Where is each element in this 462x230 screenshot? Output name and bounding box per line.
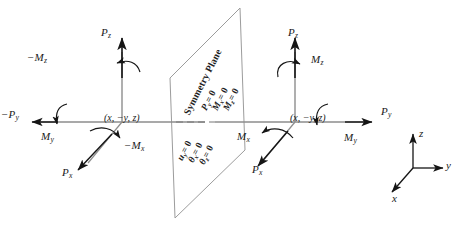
left-moment-z-label: −Mz <box>27 52 47 65</box>
right-force-x-label: Px <box>252 164 262 177</box>
right-force-y-label: Py <box>381 106 391 119</box>
right-force-z-label: Pz <box>288 27 298 40</box>
right-moment-x-label: Mx <box>237 131 250 144</box>
right-force-x-arrow <box>258 131 288 166</box>
symmetry-plane-diagram: Pz −Mz −Py My Px −Mx (x, −y, z) Pz Mz Py… <box>0 0 462 230</box>
left-force-z-label: Pz <box>101 27 111 40</box>
right-node-coordinate-label: (x, −y, z) <box>290 113 326 123</box>
left-force-x-arrow <box>78 134 112 170</box>
axis-triad <box>392 134 443 192</box>
left-moment-z-arc <box>117 61 140 72</box>
right-moment-z-label: Mz <box>311 54 323 67</box>
triad-x-label: x <box>392 193 397 204</box>
right-moment-z-arc <box>278 62 300 77</box>
left-force-y-label: −Py <box>1 109 19 122</box>
left-force-x-label: Px <box>62 167 72 180</box>
left-moment-arcs <box>56 61 140 138</box>
left-moment-y-arc <box>56 104 67 124</box>
left-moment-x-label: −Mx <box>124 140 144 153</box>
triad-z-label: z <box>419 128 423 139</box>
triad-x-axis <box>392 168 413 192</box>
left-node-coordinate-label: (x, −y, z) <box>104 113 140 123</box>
symmetry-plane-shape <box>170 8 245 218</box>
left-moment-y-label: My <box>41 131 54 144</box>
right-moment-y-label: My <box>344 132 357 145</box>
triad-y-label: y <box>446 160 451 171</box>
